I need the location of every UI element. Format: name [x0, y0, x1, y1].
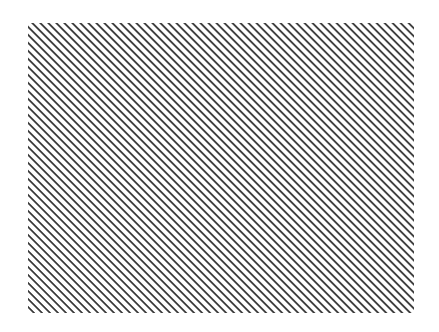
- hatched-rectangle: Rectangle filled with diagonal hatch lin…: [28, 23, 414, 313]
- canvas: Rectangle filled with diagonal hatch lin…: [0, 0, 439, 332]
